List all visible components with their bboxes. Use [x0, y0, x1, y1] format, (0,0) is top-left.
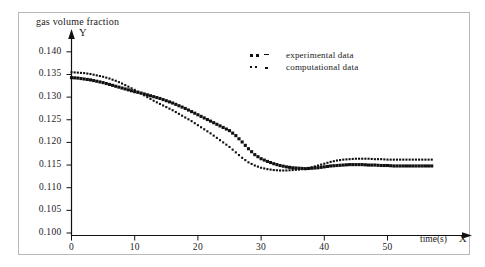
- data-point: [339, 164, 342, 167]
- data-point: [376, 164, 379, 167]
- data-point: [288, 166, 291, 169]
- data-point: [361, 163, 364, 166]
- data-point: [225, 144, 227, 146]
- data-point: [390, 159, 392, 161]
- x-tick-label: 30: [246, 242, 276, 252]
- data-point: [402, 159, 404, 161]
- y-tick-label: 0.130: [20, 91, 62, 101]
- data-point: [316, 166, 319, 169]
- data-point: [263, 167, 265, 169]
- y-axis-arrow-icon: [68, 29, 75, 39]
- data-point: [218, 124, 221, 127]
- data-point: [191, 120, 193, 122]
- data-point: [389, 164, 392, 167]
- data-point: [301, 168, 303, 170]
- data-point: [273, 169, 275, 171]
- data-point: [415, 159, 417, 161]
- data-point: [184, 116, 186, 118]
- data-point: [187, 108, 190, 111]
- y-tick-label: 0.140: [20, 46, 62, 56]
- data-point: [108, 78, 110, 80]
- data-point: [373, 164, 376, 167]
- data-point: [244, 144, 247, 147]
- data-point: [399, 164, 402, 167]
- data-point: [364, 158, 366, 160]
- data-point: [270, 169, 272, 171]
- data-point: [237, 137, 240, 140]
- data-point: [86, 73, 88, 75]
- data-point: [332, 164, 335, 167]
- data-point: [412, 159, 414, 161]
- legend-marker-computational-icon: [250, 62, 286, 72]
- data-point: [336, 159, 338, 161]
- data-point: [418, 164, 421, 167]
- data-point: [73, 76, 76, 79]
- data-point: [200, 126, 202, 128]
- data-point: [304, 168, 306, 170]
- data-point: [124, 84, 126, 86]
- data-point: [114, 85, 117, 88]
- data-point: [121, 87, 124, 90]
- data-point: [244, 159, 246, 161]
- data-point: [250, 150, 253, 153]
- data-point: [367, 164, 370, 167]
- data-point: [247, 147, 250, 150]
- x-axis-arrow-icon: [462, 232, 472, 239]
- data-point: [153, 100, 155, 102]
- data-point: [213, 135, 215, 137]
- data-point: [367, 158, 369, 160]
- data-point: [149, 94, 152, 97]
- data-point: [171, 101, 174, 104]
- data-point: [386, 159, 388, 161]
- data-point: [241, 157, 243, 159]
- data-point: [323, 163, 325, 165]
- data-point: [291, 166, 294, 169]
- data-point: [361, 158, 363, 160]
- data-point: [314, 165, 316, 167]
- data-point: [282, 169, 284, 171]
- data-point: [146, 93, 149, 96]
- data-point: [421, 159, 423, 161]
- data-point: [279, 164, 282, 167]
- data-point: [380, 158, 382, 160]
- data-point: [215, 123, 218, 126]
- data-point: [206, 118, 209, 121]
- data-point: [257, 166, 259, 168]
- legend-item-computational: computational data: [250, 61, 400, 73]
- data-point: [430, 164, 433, 167]
- chart-legend: experimental data computational data: [250, 49, 400, 73]
- data-point: [256, 155, 259, 158]
- data-point: [127, 86, 129, 88]
- data-point: [105, 77, 107, 79]
- data-point: [168, 100, 171, 103]
- data-point: [86, 78, 89, 81]
- x-tick-label: 20: [183, 242, 213, 252]
- data-point: [111, 84, 114, 87]
- data-point: [130, 87, 132, 89]
- data-point: [370, 164, 373, 167]
- data-point: [383, 158, 385, 160]
- data-point: [162, 104, 164, 106]
- data-point: [118, 81, 120, 83]
- data-point: [374, 158, 376, 160]
- data-point: [99, 75, 101, 77]
- data-point: [414, 164, 417, 167]
- data-point: [175, 111, 177, 113]
- data-point: [320, 164, 322, 166]
- data-point: [276, 169, 278, 171]
- data-point: [121, 82, 123, 84]
- data-point: [238, 154, 240, 156]
- data-point: [320, 166, 323, 169]
- data-point: [307, 167, 309, 169]
- data-point: [326, 162, 328, 164]
- y-tick-label: 0.125: [20, 114, 62, 124]
- data-point: [127, 88, 130, 91]
- data-point: [342, 159, 344, 161]
- data-point: [74, 71, 76, 73]
- x-ticks-group: [72, 236, 388, 241]
- data-point: [418, 159, 420, 161]
- data-point: [190, 110, 193, 113]
- legend-item-experimental: experimental data: [250, 49, 400, 61]
- legend-label-computational: computational data: [286, 62, 358, 72]
- x-tick-label: 10: [120, 242, 150, 252]
